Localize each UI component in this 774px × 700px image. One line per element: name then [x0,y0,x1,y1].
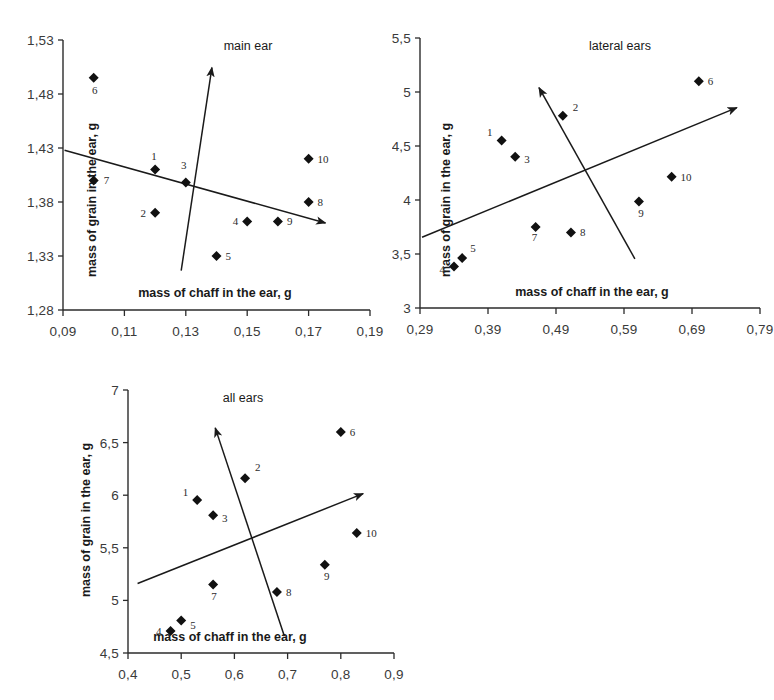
x-tick-label: 0,11 [111,324,137,339]
data-point-marker [558,111,568,121]
x-tick-label: 0,39 [474,322,501,337]
data-point-marker [208,580,218,590]
data-point-marker [304,197,314,207]
y-tick-label: 1,33 [27,249,54,264]
data-point-marker [457,253,467,263]
chart-panel-lateral-ears: 5,554,543,530,290,390,490,590,690,79late… [392,0,774,360]
x-tick-label: 0,9 [384,667,403,682]
lateral-ears-chart-svg: 5,554,543,530,290,390,490,590,690,79late… [392,0,774,360]
scatter-plot-figure: 1,531,481,431,381,331,280,090,110,130,15… [0,0,774,700]
x-tick-label: 0,29 [406,322,433,337]
data-point-marker [212,251,222,261]
data-point-label: 1 [183,486,189,498]
data-point-label: 8 [580,226,586,238]
x-tick-label: 0,79 [746,322,773,337]
data-point-marker [272,587,282,597]
y-tick-label: 7 [111,383,119,398]
data-point-marker [192,495,202,505]
x-tick-label: 0,09 [49,324,76,339]
data-point-label: 10 [366,527,378,539]
data-point-label: 6 [92,84,98,96]
y-tick-label: 6,5 [100,436,119,451]
x-tick-label: 0,5 [172,667,191,682]
x-axis-title: mass of chaff in the ear, g [515,285,669,299]
data-point-marker [181,178,191,188]
data-point-marker [352,528,362,538]
y-axis-title: mass of grain in the ear, g [85,123,99,277]
chart-title: all ears [223,391,263,405]
data-point-label: 2 [141,207,147,219]
y-tick-label: 1,38 [27,195,54,210]
data-point-label: 7 [532,231,538,243]
data-point-marker [634,197,644,207]
y-axis-title: mass of grain in the ear, g [79,443,93,597]
second-axis-arrow [539,88,635,259]
data-point-label: 6 [350,426,356,438]
data-point-marker [497,136,507,146]
y-tick-label: 5 [111,593,119,608]
data-point-label: 5 [190,619,196,631]
x-tick-label: 0,49 [542,322,569,337]
data-point-marker [150,165,160,175]
data-point-label: 10 [318,153,330,165]
y-axis-title: mass of grain in the ear, g [439,123,453,277]
data-point-marker [176,615,186,625]
data-point-label: 9 [287,215,293,227]
data-point-label: 2 [573,101,579,113]
x-tick-label: 0,69 [678,322,705,337]
data-point-label: 10 [681,171,693,183]
y-tick-label: 1,28 [27,303,54,318]
data-point-label: 3 [181,159,187,171]
data-point-label: 5 [470,242,476,254]
y-tick-label: 1,43 [27,141,54,156]
data-point-label: 2 [255,461,260,473]
y-tick-label: 4,5 [392,139,411,154]
data-point-marker [667,172,677,182]
chart-panel-main-ear: 1,531,481,431,381,331,280,090,110,130,15… [0,0,392,360]
x-tick-label: 0,4 [118,667,138,682]
x-tick-label: 0,17 [295,324,322,339]
x-tick-label: 0,7 [278,667,297,682]
data-point-marker [208,510,218,520]
data-point-label: 7 [104,174,110,186]
data-point-label: 6 [708,75,714,87]
data-point-label: 8 [286,586,292,598]
data-point-label: 4 [156,625,162,637]
data-point-label: 9 [324,570,330,582]
chart-title: lateral ears [589,39,651,53]
x-tick-label: 0,15 [234,324,261,339]
data-point-label: 1 [151,150,157,162]
first-axis-arrow [65,150,326,223]
data-point-marker [320,560,330,570]
data-point-label: 8 [318,196,324,208]
chart-title: main ear [224,39,273,53]
y-tick-label: 3,5 [392,247,411,262]
y-tick-label: 5,5 [100,541,119,556]
data-point-marker [89,73,99,83]
y-tick-label: 6 [111,488,119,503]
chart-panel-all-ears: 76,565,554,50,40,50,60,70,80,9all earsma… [0,360,420,700]
y-tick-label: 4,5 [100,646,119,661]
y-tick-label: 1,53 [27,33,54,48]
data-point-marker [566,227,576,237]
x-tick-label: 0,6 [225,667,244,682]
data-point-label: 4 [233,215,239,227]
data-point-label: 9 [638,207,644,219]
y-tick-label: 1,48 [27,87,54,102]
x-tick-label: 0,8 [331,667,350,682]
y-tick-label: 5 [403,85,411,100]
y-tick-label: 3 [403,301,411,316]
data-point-label: 4 [440,263,446,275]
data-point-marker [242,216,252,226]
data-point-marker [273,216,283,226]
data-point-label: 7 [211,590,217,602]
data-point-marker [336,427,346,437]
second-axis-arrow [215,428,284,636]
data-point-marker [240,473,250,483]
data-point-label: 1 [487,126,493,138]
y-tick-label: 5,5 [392,31,411,46]
data-point-label: 3 [524,153,530,165]
data-point-label: 3 [222,512,228,524]
data-point-label: 5 [226,250,232,262]
x-tick-label: 0,13 [172,324,199,339]
